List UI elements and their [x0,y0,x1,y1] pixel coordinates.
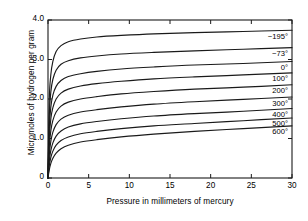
series-label-195: −195° [242,32,288,41]
y-tick-label: 0 [18,172,44,181]
series-label-300: 300° [242,99,288,108]
x-tick-label: 15 [158,181,182,190]
series-label-100: 100° [242,74,288,83]
y-tick-label: 3.0 [18,54,44,63]
x-tick-label: 20 [199,181,223,190]
series-label-600: 600° [242,127,288,136]
y-tick-label: 4.0 [18,14,44,23]
x-tick-label: 0 [36,181,60,190]
x-tick-label: 10 [117,181,141,190]
x-tick-label: 5 [77,181,101,190]
x-axis-title: Pressure in millimeters of mercury [48,197,292,206]
chart-figure: Micromoles of hydrogen per gram Pressure… [0,0,308,221]
series-label-200: 200° [242,86,288,95]
series-label-73: −73° [242,49,288,58]
series-label-400: 400° [242,110,288,119]
y-tick-label: 2.0 [18,93,44,102]
x-tick-label: 25 [239,181,263,190]
series-label-0: 0° [242,63,288,72]
y-tick-label: 1.0 [18,133,44,142]
x-tick-label: 30 [280,181,304,190]
